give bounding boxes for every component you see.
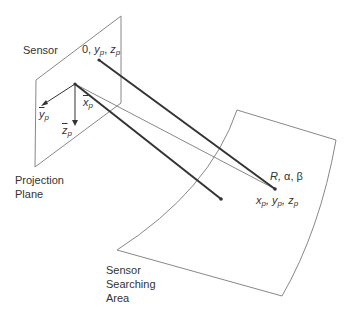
tz-sub: p: [294, 199, 298, 208]
sensor-label: Sensor: [23, 44, 58, 57]
searching-area-label-line2: Searching: [106, 278, 156, 291]
target-point-label: xp, yp, zp: [256, 194, 298, 207]
y-axis-sub: p: [45, 113, 49, 122]
searching-area-label-line3: Area: [106, 292, 129, 305]
diagram-canvas: Sensor 0, yp, zp xp yp zp Projection Pla…: [0, 0, 350, 316]
z-axis-arrowhead: [72, 120, 78, 126]
ty-sub: p: [278, 199, 282, 208]
projection-plane: [35, 16, 121, 167]
z-sub: p: [116, 48, 120, 57]
surface-point: [219, 197, 223, 201]
target-point: [273, 187, 277, 191]
projection-plane-label-line2: Plane: [15, 188, 43, 201]
zero-text: 0,: [82, 43, 91, 55]
comma-text: ,: [104, 43, 107, 55]
r-text: R,: [270, 170, 281, 182]
sensor-origin-point: [73, 82, 76, 85]
z-axis-sub: p: [68, 129, 72, 138]
projection-plane-label-line1: Projection: [15, 174, 64, 187]
polar-label: R, α, β: [270, 170, 303, 183]
y-axis-line: [44, 84, 75, 104]
origin-to-surface-line: [75, 84, 221, 199]
searching-area-label-line1: Sensor: [106, 264, 141, 277]
x-axis-label: xp: [83, 96, 93, 109]
sensor-origin-label: 0, yp, zp: [82, 43, 120, 56]
sensor-searching-area: [117, 110, 336, 296]
z-axis-label: zp: [62, 124, 72, 137]
alpha-text: α,: [284, 170, 293, 182]
sensor-offset-point: [97, 58, 100, 61]
tx-sub: p: [262, 199, 266, 208]
y-axis-label: yp: [39, 108, 49, 121]
beta-text: β: [297, 170, 303, 182]
thin-ray: [75, 84, 275, 189]
x-axis-sub: p: [89, 101, 93, 110]
y-axis-arrowhead: [41, 100, 48, 106]
